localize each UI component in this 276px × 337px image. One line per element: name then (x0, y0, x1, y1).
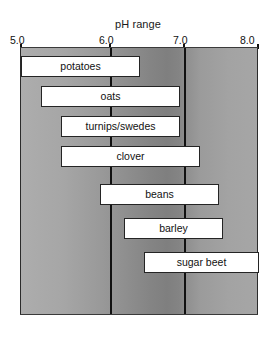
bar-label-turnips-swedes: turnips/swedes (85, 121, 155, 132)
x-tick-label-8: 8.0 (240, 34, 255, 46)
bar-potatoes[interactable]: potatoes (21, 56, 140, 77)
plot-bottom-border (20, 314, 258, 315)
bar-label-sugar-beet: sugar beet (177, 257, 227, 268)
bar-label-potatoes: potatoes (60, 61, 100, 72)
x-tick-label-5: 5.0 (10, 34, 25, 46)
bar-label-oats: oats (101, 91, 121, 102)
plot-area: potatoes oats turnips/swedes clover bean… (20, 48, 258, 315)
bar-label-barley: barley (159, 223, 188, 234)
gridline-ph-7 (184, 48, 186, 315)
ph-range-chart: pH range 5.0 6.0 7.0 8.0 potatoes oats t… (0, 0, 276, 337)
x-tick-label-6: 6.0 (99, 34, 114, 46)
bar-label-beans: beans (145, 189, 174, 200)
bar-barley[interactable]: barley (124, 218, 223, 239)
bar-oats[interactable]: oats (41, 86, 180, 107)
bar-clover[interactable]: clover (61, 146, 200, 167)
bar-turnips-swedes[interactable]: turnips/swedes (61, 116, 180, 137)
x-tick-label-7: 7.0 (173, 34, 188, 46)
bar-beans[interactable]: beans (100, 184, 219, 205)
bar-sugar-beet[interactable]: sugar beet (144, 252, 259, 273)
bar-label-clover: clover (116, 151, 144, 162)
chart-title: pH range (0, 18, 276, 30)
